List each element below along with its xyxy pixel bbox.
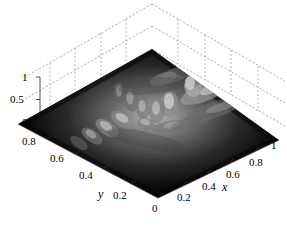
y-tick-label-0-8: 0.8 xyxy=(22,136,36,147)
y-tick-label-0-6: 0.6 xyxy=(50,153,64,164)
x-axis-title: x xyxy=(222,181,227,193)
y-tick-label-0-2: 0.2 xyxy=(113,190,127,201)
x-tick-label-0-4: 0.4 xyxy=(202,181,216,192)
y-axis-title: y xyxy=(98,188,103,200)
z-tick-label-0-5: 0.5 xyxy=(10,94,24,105)
z-tick-label-1: 1 xyxy=(22,72,28,83)
x-tick-label-0-8: 0.8 xyxy=(249,157,263,168)
surface-plot-canvas xyxy=(0,0,287,225)
x-tick-label-0-2: 0.2 xyxy=(177,192,191,203)
z-tick-label-0: 0 xyxy=(22,117,28,128)
y-tick-label-0: 0 xyxy=(152,203,158,214)
x-tick-label-1: 1 xyxy=(271,140,277,151)
y-tick-label-0-4: 0.4 xyxy=(79,170,93,181)
x-tick-label-0-6: 0.6 xyxy=(226,169,240,180)
figure-3d-surface-plot: 1 0.5 0 0.8 0.6 0.4 0.2 0 0.2 0.4 0.6 0.… xyxy=(0,0,287,225)
